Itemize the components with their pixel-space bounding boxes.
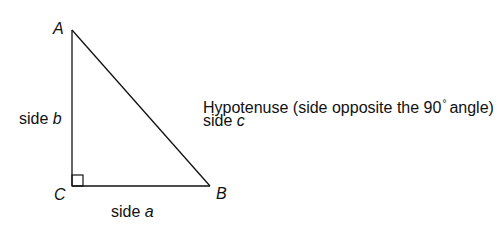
vertex-label-a: A xyxy=(53,20,64,38)
side-a-label: side a xyxy=(111,203,154,221)
vertex-label-b: B xyxy=(216,185,227,203)
hypotenuse-line xyxy=(72,30,210,186)
hypotenuse-text-after: angle) xyxy=(449,99,493,116)
side-c-letter: c xyxy=(237,112,245,129)
side-c-label: side c xyxy=(203,112,245,130)
vertex-label-c: C xyxy=(54,186,66,204)
side-b-prefix: side xyxy=(19,110,53,127)
hypotenuse-note: Hypotenuse (side opposite the 90°angle) xyxy=(203,95,494,117)
side-c-prefix: side xyxy=(203,112,237,129)
side-b-letter: b xyxy=(53,110,62,127)
side-a-letter: a xyxy=(145,203,154,220)
side-a-prefix: side xyxy=(111,203,145,220)
right-angle-marker xyxy=(72,175,83,186)
side-b-label: side b xyxy=(19,110,62,128)
